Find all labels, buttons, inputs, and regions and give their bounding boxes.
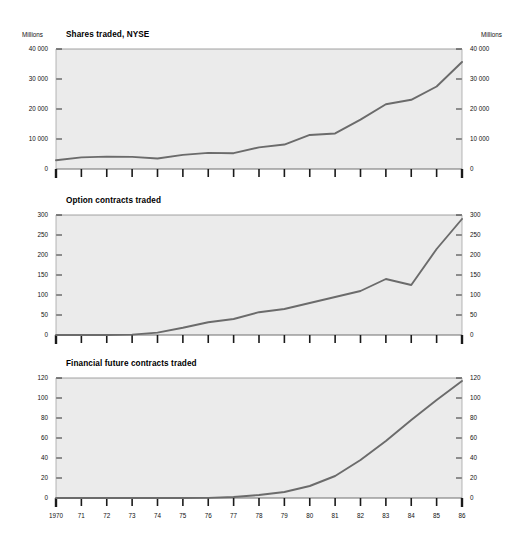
- x-tick-label: 72: [103, 512, 111, 519]
- chart-panel-shares-traded-nyse: Millions Millions Shares traded, NYSE 00…: [0, 30, 516, 190]
- chart-svg-0: 0010 00010 00020 00020 00030 00030 00040…: [0, 30, 516, 190]
- y-tick-label-left: 30 000: [29, 75, 49, 82]
- chart-page: Millions Millions Shares traded, NYSE 00…: [0, 0, 516, 539]
- y-tick-label-right: 40 000: [470, 45, 490, 52]
- y-tick-label-left: 0: [44, 165, 48, 172]
- y-tick-label-left: 100: [37, 291, 48, 298]
- y-tick-label-right: 120: [470, 374, 481, 381]
- x-tick-label: 77: [230, 512, 238, 519]
- x-tick-label: 84: [408, 512, 416, 519]
- x-tick-label: 85: [433, 512, 441, 519]
- y-tick-label-left: 150: [37, 271, 48, 278]
- chart-panel-financial-future-contracts-traded: Financial future contracts traded 002020…: [0, 359, 516, 534]
- y-tick-label-right: 150: [470, 271, 481, 278]
- x-tick-label: 74: [154, 512, 162, 519]
- y-tick-label-right: 30 000: [470, 75, 490, 82]
- x-tick-label: 81: [332, 512, 340, 519]
- x-tick-label: 75: [179, 512, 187, 519]
- y-tick-label-right: 80: [470, 414, 478, 421]
- y-tick-label-left: 20 000: [29, 105, 49, 112]
- x-tick-label: 78: [255, 512, 263, 519]
- x-tick-label: 83: [382, 512, 390, 519]
- plot-area: [56, 49, 462, 169]
- chart-svg-2: 0020204040606080801001001201201970717273…: [0, 359, 516, 534]
- y-tick-label-left: 100: [37, 394, 48, 401]
- x-tick-label: 80: [306, 512, 314, 519]
- y-tick-label-right: 0: [470, 331, 474, 338]
- y-tick-label-right: 300: [470, 211, 481, 218]
- y-tick-label-right: 60: [470, 434, 478, 441]
- y-tick-label-left: 60: [41, 434, 49, 441]
- y-tick-label-right: 100: [470, 394, 481, 401]
- y-tick-label-right: 0: [470, 165, 474, 172]
- y-tick-label-left: 0: [44, 494, 48, 501]
- y-tick-label-right: 20: [470, 474, 478, 481]
- chart-svg-1: 005050100100150150200200250250300300: [0, 196, 516, 356]
- plot-area: [56, 378, 462, 498]
- y-tick-label-right: 250: [470, 231, 481, 238]
- x-tick-label: 76: [205, 512, 213, 519]
- y-tick-label-left: 0: [44, 331, 48, 338]
- y-tick-label-right: 10 000: [470, 135, 490, 142]
- y-tick-label-left: 80: [41, 414, 49, 421]
- y-tick-label-left: 40 000: [29, 45, 49, 52]
- x-tick-label: 79: [281, 512, 289, 519]
- y-tick-label-right: 40: [470, 454, 478, 461]
- y-tick-label-left: 300: [37, 211, 48, 218]
- plot-area: [56, 215, 462, 335]
- x-tick-label: 82: [357, 512, 365, 519]
- y-tick-label-right: 20 000: [470, 105, 490, 112]
- y-tick-label-right: 100: [470, 291, 481, 298]
- x-tick-label: 86: [458, 512, 466, 519]
- y-tick-label-left: 200: [37, 251, 48, 258]
- y-tick-label-left: 50: [41, 311, 49, 318]
- x-tick-label: 71: [78, 512, 86, 519]
- y-tick-label-left: 20: [41, 474, 49, 481]
- y-tick-label-left: 40: [41, 454, 49, 461]
- y-tick-label-right: 50: [470, 311, 478, 318]
- x-tick-label: 73: [129, 512, 137, 519]
- y-tick-label-left: 10 000: [29, 135, 49, 142]
- y-tick-label-left: 250: [37, 231, 48, 238]
- x-tick-label: 1970: [49, 512, 64, 519]
- y-tick-label-right: 200: [470, 251, 481, 258]
- y-tick-label-left: 120: [37, 374, 48, 381]
- y-tick-label-right: 0: [470, 494, 474, 501]
- chart-panel-option-contracts-traded: Option contracts traded 0050501001001501…: [0, 196, 516, 356]
